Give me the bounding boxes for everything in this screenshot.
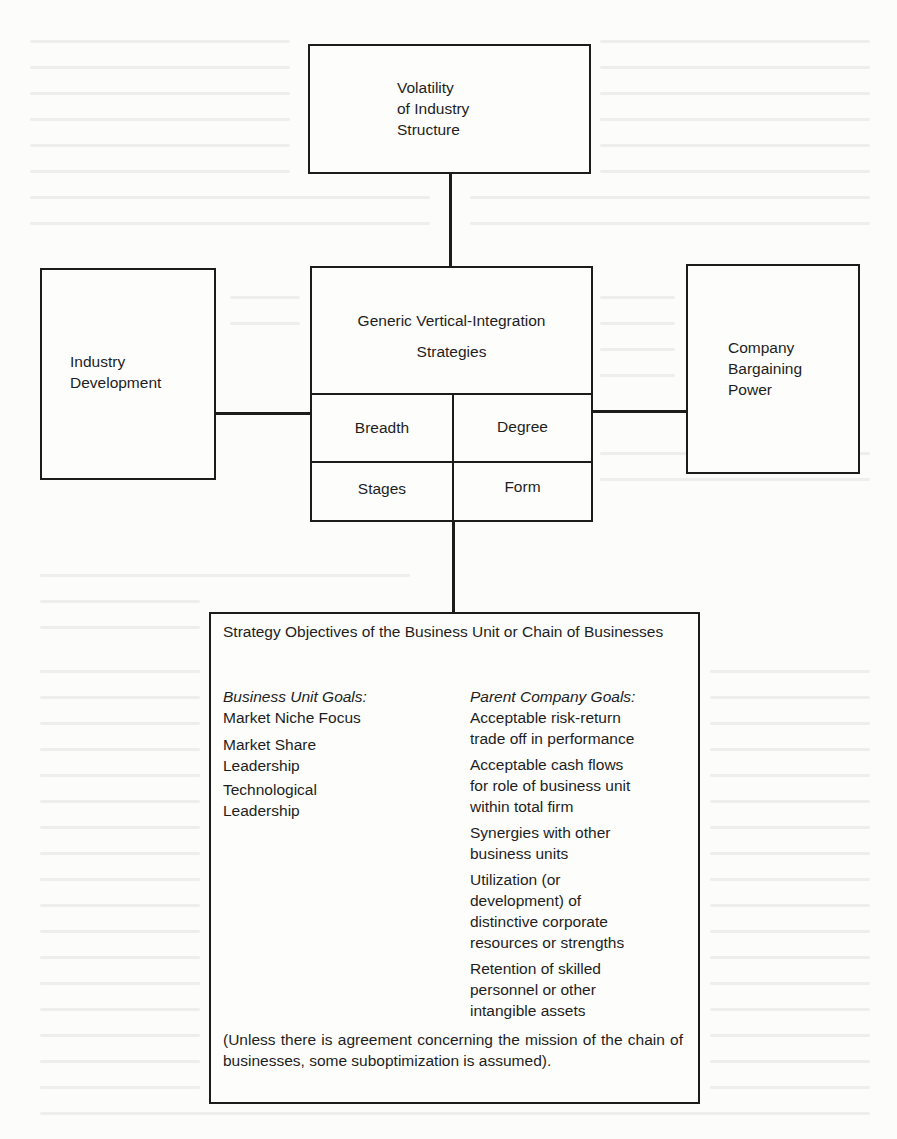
goal-item: Market Share Leadership xyxy=(223,734,453,776)
industry-development-box: Industry Development xyxy=(40,268,216,480)
connector-center-to-bottom xyxy=(452,520,455,613)
cell-breadth: Breadth xyxy=(312,418,452,438)
business-unit-goals-heading: Business Unit Goals: xyxy=(223,686,453,707)
parent-company-goals: Parent Company Goals: Acceptable risk-re… xyxy=(470,686,695,1026)
center-divider-vertical xyxy=(452,393,454,520)
center-title-line2: Strategies xyxy=(312,342,591,362)
company-bargaining-power-box: Company Bargaining Power xyxy=(686,264,860,474)
cell-stages: Stages xyxy=(312,479,452,499)
goal-item: Synergies with other business units xyxy=(470,822,695,864)
industry-development-label: Industry Development xyxy=(70,351,161,393)
volatility-of-industry-structure-box: Volatility of Industry Structure xyxy=(308,44,591,174)
parent-company-goals-heading: Parent Company Goals: xyxy=(470,686,695,707)
goal-item: Acceptable cash flows for role of busine… xyxy=(470,754,695,817)
goal-item: Market Niche Focus xyxy=(223,707,453,728)
company-bargaining-power-label: Company Bargaining Power xyxy=(728,337,802,400)
goal-item: Retention of skilled personnel or other … xyxy=(470,958,695,1021)
goal-item: Utilization (or development) of distinct… xyxy=(470,869,695,953)
goal-item: Technological Leadership xyxy=(223,779,453,821)
connector-center-to-right xyxy=(591,410,687,413)
business-unit-goals: Business Unit Goals: Market Niche Focus … xyxy=(223,686,453,826)
connector-left-to-center xyxy=(214,412,311,415)
strategy-objectives-title: Strategy Objectives of the Business Unit… xyxy=(223,621,693,642)
volatility-of-industry-structure-label: Volatility of Industry Structure xyxy=(397,77,469,140)
goal-item: Acceptable risk-return trade off in perf… xyxy=(470,707,695,749)
strategy-objectives-box: Strategy Objectives of the Business Unit… xyxy=(209,612,700,1104)
cell-form: Form xyxy=(454,477,591,497)
connector-top-to-center xyxy=(449,172,452,268)
generic-vertical-integration-strategies-box: Generic Vertical-Integration Strategies … xyxy=(310,266,593,522)
center-title-line1: Generic Vertical-Integration xyxy=(312,311,591,331)
cell-degree: Degree xyxy=(454,417,591,437)
suboptimization-footnote: (Unless there is agreement concerning th… xyxy=(223,1029,683,1071)
